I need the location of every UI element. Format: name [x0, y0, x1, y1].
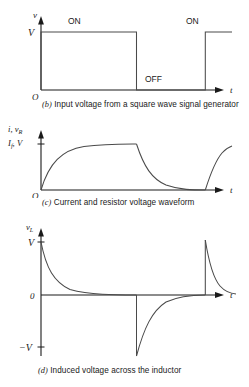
panel-c-caption: (c) Current and resistor voltage wavefor… [0, 198, 249, 209]
panel-d-y-axis-arrow [38, 228, 44, 237]
panel-c-curve-rise-1 [41, 144, 137, 190]
panel-c-y-axis-label-line1: i, vR [8, 124, 23, 135]
panel-b-annotation-on-2: ON [186, 16, 199, 26]
panel-b-waveform [41, 32, 232, 90]
panel-b-input-voltage: v V O t ON OFF ON [0, 0, 249, 100]
panel-d-chart: vL V 0 −V t [0, 216, 249, 366]
panel-c-origin-label: O [32, 191, 39, 198]
panel-b-y-tick-V: V [28, 27, 36, 38]
panel-d-y-tick-label-minus-V: −V [19, 342, 34, 353]
panel-c-caption-text: Current and resistor voltage waveform [54, 198, 195, 207]
panel-d-induced-voltage: vL V 0 −V t [0, 216, 249, 366]
panel-c-y-axis-arrow [38, 130, 44, 139]
panel-b-y-axis-arrow [38, 16, 44, 25]
panel-c-x-axis-label: t [230, 185, 233, 195]
panel-b-caption-text: Input voltage from a square wave signal … [54, 100, 239, 109]
panel-d-x-axis-arrow [215, 292, 224, 298]
panel-c-y-axis-label-line2: If, V [7, 138, 24, 149]
panel-d-curve-rise-neg [137, 295, 206, 356]
panel-b-x-axis-arrow [215, 87, 224, 93]
panel-d-caption-tag: (d) [38, 366, 48, 375]
panel-b-y-axis-label: v [33, 10, 37, 20]
panel-d-y-tick-label-V: V [28, 237, 36, 248]
panel-d-caption: (d) Induced voltage across the inductor [0, 366, 249, 377]
panel-b-caption-tag: (b) [42, 100, 52, 109]
panel-c-curve-decay-1 [137, 144, 206, 190]
panel-b-chart: v V O t ON OFF ON [0, 0, 249, 100]
panel-c-chart: i, vR If, V O t [0, 122, 249, 198]
panel-d-x-axis-label: t [230, 290, 233, 300]
panel-d-caption-text: Induced voltage across the inductor [50, 366, 181, 375]
panel-b-annotation-on-1: ON [68, 16, 81, 26]
panel-c-caption-tag: (c) [42, 198, 51, 207]
panel-b-origin-label: O [32, 92, 39, 100]
panel-c-curve-rise-2 [205, 146, 232, 190]
panel-b-x-axis-label: t [230, 85, 233, 95]
panel-d-curve-decay-2 [205, 240, 236, 294]
panel-b-annotation-off: OFF [145, 74, 162, 84]
panel-c-x-axis-arrow [215, 187, 224, 193]
figure-root: v V O t ON OFF ON (b) Input voltage from… [0, 0, 249, 387]
panel-d-curve-decay-1 [41, 242, 137, 295]
panel-d-y-axis-label: vL [26, 222, 34, 233]
panel-d-y-tick-label-zero: 0 [30, 291, 35, 301]
panel-c-current-resistor: i, vR If, V O t [0, 122, 249, 198]
panel-b-caption: (b) Input voltage from a square wave sig… [0, 100, 249, 111]
